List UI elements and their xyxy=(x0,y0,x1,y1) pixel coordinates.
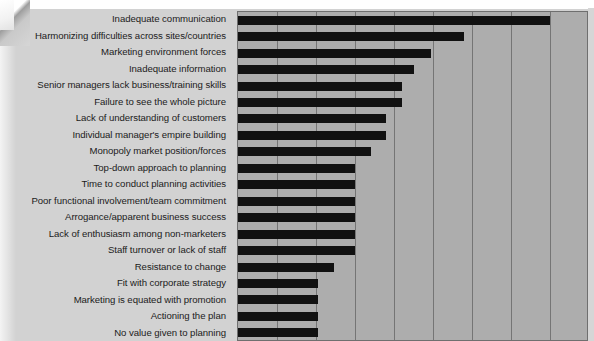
bar-row xyxy=(238,45,587,61)
bar-row xyxy=(238,12,587,28)
bar-row xyxy=(238,259,587,275)
bar xyxy=(238,164,355,173)
bar-row xyxy=(238,111,587,127)
category-label: Inadequate communication xyxy=(0,11,232,28)
category-label: Fit with corporate strategy xyxy=(0,275,232,292)
bar xyxy=(238,213,355,222)
bar-row xyxy=(238,160,587,176)
bar xyxy=(238,65,414,74)
category-label: No value given to planning xyxy=(0,325,232,341)
category-label: Inadequate information xyxy=(0,61,232,78)
bar-row xyxy=(238,94,587,110)
bar xyxy=(238,230,355,239)
category-label: Resistance to change xyxy=(0,259,232,276)
bar-row xyxy=(238,325,587,341)
bar xyxy=(238,295,318,304)
bar xyxy=(238,197,355,206)
scanned-chart-page: Inadequate communicationHarmonizing diff… xyxy=(0,0,594,341)
bar xyxy=(238,312,318,321)
page-right-margin xyxy=(588,8,594,341)
bar xyxy=(238,16,550,25)
bar xyxy=(238,82,402,91)
bar xyxy=(238,147,371,156)
bar xyxy=(238,180,355,189)
bar-row xyxy=(238,292,587,308)
bar xyxy=(238,49,431,58)
horizontal-bar-chart: Inadequate communicationHarmonizing diff… xyxy=(0,0,594,341)
bar-row xyxy=(238,61,587,77)
category-axis-labels: Inadequate communicationHarmonizing diff… xyxy=(0,11,232,341)
category-label: Poor functional involvement/team commitm… xyxy=(0,193,232,210)
bar-series xyxy=(238,12,587,341)
bar-row xyxy=(238,127,587,143)
category-label: Monopoly market position/forces xyxy=(0,143,232,160)
bar-row xyxy=(238,193,587,209)
bar-row xyxy=(238,209,587,225)
category-label: Marketing environment forces xyxy=(0,44,232,61)
bar xyxy=(238,114,386,123)
category-label: Staff turnover or lack of staff xyxy=(0,242,232,259)
bar-row xyxy=(238,28,587,44)
category-label: Top-down approach to planning xyxy=(0,160,232,177)
bar-row xyxy=(238,226,587,242)
bar-row xyxy=(238,275,587,291)
bar xyxy=(238,263,334,272)
plot-area xyxy=(237,11,588,341)
category-label: Marketing is equated with promotion xyxy=(0,292,232,309)
category-label: Failure to see the whole picture xyxy=(0,94,232,111)
bar-row xyxy=(238,78,587,94)
category-label: Actioning the plan xyxy=(0,308,232,325)
category-label: Lack of understanding of customers xyxy=(0,110,232,127)
category-label: Harmonizing difficulties across sites/co… xyxy=(0,28,232,45)
bar-row xyxy=(238,242,587,258)
category-label: Senior managers lack business/training s… xyxy=(0,77,232,94)
bar xyxy=(238,98,402,107)
bar-row xyxy=(238,177,587,193)
bar xyxy=(238,328,318,337)
bar xyxy=(238,32,464,41)
bar xyxy=(238,131,386,140)
category-label: Lack of enthusiasm among non-marketers xyxy=(0,226,232,243)
category-label: Arrogance/apparent business success xyxy=(0,209,232,226)
bar xyxy=(238,279,318,288)
bar-row xyxy=(238,308,587,324)
bar xyxy=(238,246,355,255)
category-label: Time to conduct planning activities xyxy=(0,176,232,193)
category-label: Individual manager's empire building xyxy=(0,127,232,144)
bar-row xyxy=(238,144,587,160)
